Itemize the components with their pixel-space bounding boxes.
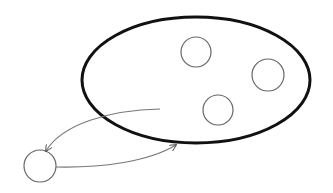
member-circles: [181, 37, 284, 125]
member-circle-2: [252, 59, 284, 91]
arrow-outside-element-to-set-boundary: [56, 145, 176, 167]
member-circle-3: [203, 95, 233, 125]
member-circle-1: [181, 37, 211, 67]
outside-element-circle: [24, 150, 56, 182]
set-ellipse: [82, 17, 310, 143]
diagram-canvas: [0, 0, 333, 193]
